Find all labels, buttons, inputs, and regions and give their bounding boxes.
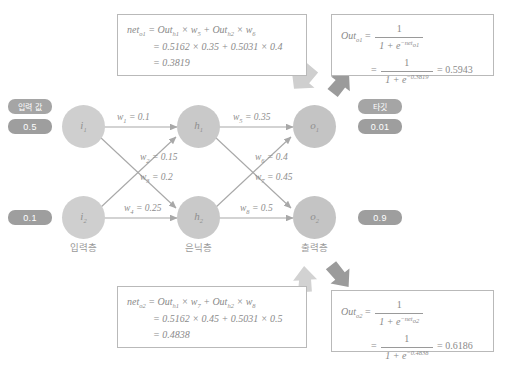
net-o2-line1: neto2 = Outh1 × w7 + Outh2 × w8 (127, 294, 297, 311)
weight-label-w4: w4 = 0.25 (124, 203, 161, 215)
node-o2[interactable]: o2 (293, 196, 336, 239)
node-h1[interactable]: h1 (177, 105, 220, 148)
input-value-2: 0.1 (8, 210, 52, 225)
node-i2[interactable]: i2 (62, 196, 105, 239)
node-i2-label: i2 (80, 210, 86, 224)
weight-label-w2: w2 = 0.15 (140, 152, 177, 164)
weight-label-w3: w3 = 0.2 (140, 172, 173, 184)
weight-label-w1: w1 = 0.1 (117, 112, 150, 124)
weight-label-w6: w6 = 0.4 (255, 152, 288, 164)
layer-label-input: 입력층 (53, 240, 113, 254)
net-o2-line3: = 0.4838 (127, 327, 297, 343)
target-value-2: 0.9 (358, 210, 402, 225)
weight-label-w5: w5 = 0.35 (233, 112, 270, 124)
formula-box-out-o1: Outo1 = 1 1 + e−neto1 = 1 1 + e−0.3819 =… (331, 14, 494, 76)
target-value-1: 0.01 (358, 119, 402, 134)
out-o2-line1: Outo2 = 1 1 + e−neto2 (341, 297, 484, 329)
input-values-caption: 입력 값 (8, 99, 52, 114)
input-value-1: 0.5 (8, 119, 52, 134)
net-o1-line2: = 0.5162 × 0.35 + 0.5031 × 0.4 (127, 39, 297, 55)
layer-label-hidden: 은닉층 (168, 240, 228, 254)
node-o2-label: o2 (310, 210, 319, 224)
target-caption: 타깃 (358, 99, 402, 114)
node-o1-label: o1 (310, 119, 319, 133)
net-o1-line1: neto1 = Outh1 × w5 + Outh2 × w6 (127, 22, 297, 39)
net-o1-line3: = 0.3819 (127, 55, 297, 71)
node-i1[interactable]: i1 (62, 105, 105, 148)
formula-box-net-o1: neto1 = Outh1 × w5 + Outh2 × w6 = 0.5162… (117, 14, 307, 76)
net-o2-line2: = 0.5162 × 0.45 + 0.5031 × 0.5 (127, 311, 297, 327)
out-o2-line2: = 1 1 + e−0.4838 = 0.6186 (341, 331, 484, 363)
weight-label-w7: w7 = 0.45 (255, 172, 292, 184)
weight-label-w8: w8 = 0.5 (240, 203, 273, 215)
out-o1-line1: Outo1 = 1 1 + e−neto1 (341, 21, 484, 53)
node-i1-label: i1 (80, 119, 86, 133)
layer-label-output: 출력층 (284, 240, 344, 254)
node-h2-label: h2 (194, 210, 203, 224)
diagram-canvas: i1 i2 h1 h2 o1 o2 입력층 은닉층 출력층 입력 값 0.5 0… (0, 0, 507, 365)
node-o1[interactable]: o1 (293, 105, 336, 148)
formula-box-out-o2: Outo2 = 1 1 + e−neto2 = 1 1 + e−0.4838 =… (331, 290, 494, 352)
node-h1-label: h1 (194, 119, 203, 133)
formula-box-net-o2: neto2 = Outh1 × w7 + Outh2 × w8 = 0.5162… (117, 286, 307, 348)
arrow-to-out-o2-box (322, 258, 358, 295)
node-h2[interactable]: h2 (177, 196, 220, 239)
out-o1-line2: = 1 1 + e−0.3819 = 0.5943 (341, 55, 484, 87)
